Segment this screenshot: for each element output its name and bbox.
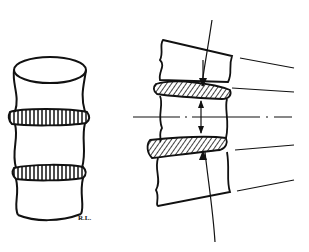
right-vertebra-bottom xyxy=(156,152,230,206)
right-vertebra-top xyxy=(160,40,232,82)
left-vertebra-middle xyxy=(14,123,85,168)
left-disc-lower xyxy=(13,165,86,181)
annotation-line-4 xyxy=(237,180,294,191)
artist-signature: R.L. xyxy=(78,214,91,222)
right-vertebra-middle xyxy=(160,96,227,142)
annotation-line-3 xyxy=(235,145,294,150)
left-vertebra-bottom xyxy=(16,178,83,220)
right-column-figure xyxy=(133,20,294,242)
left-column-figure xyxy=(9,57,89,220)
arrow-down-small-icon xyxy=(198,126,204,134)
annotation-line-2 xyxy=(232,88,294,92)
vertebrae-diagram: R.L. xyxy=(0,0,309,252)
arrow-up-small-icon xyxy=(198,100,204,108)
annotation-line-1 xyxy=(240,58,294,68)
left-vertebra-top xyxy=(14,57,86,112)
right-disc-lower xyxy=(148,137,227,158)
left-disc-upper xyxy=(9,109,89,125)
right-disc-upper xyxy=(154,82,231,99)
